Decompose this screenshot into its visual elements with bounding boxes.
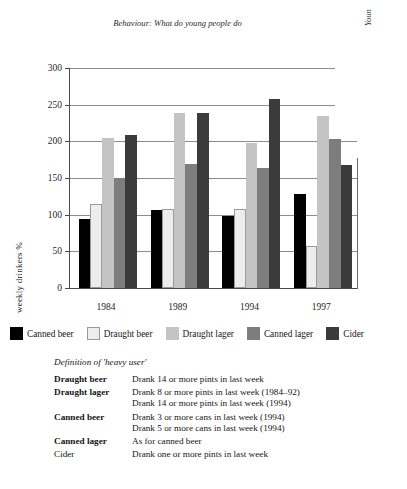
bar-cider-1994: [269, 99, 281, 288]
x-axis-tick-label: 1997: [312, 302, 331, 312]
y-axis-tick: [65, 215, 70, 216]
bar-canned-beer-1989: [151, 210, 163, 288]
definition-line: Drank one or more pints in last week: [132, 449, 394, 460]
gridline: [70, 68, 335, 69]
y-axis-tick-label: 150: [48, 173, 62, 183]
bar-canned-lager-1994: [257, 168, 269, 288]
definition-row: Canned beerDrank 3 or more cans in last …: [54, 412, 394, 434]
x-axis-tick-label: 1994: [240, 302, 259, 312]
bar-canned-lager-1997: [329, 139, 341, 288]
legend-label: Draught lager: [183, 329, 234, 339]
bar-canned-beer-1997: [294, 194, 306, 288]
legend-item-draught-beer: Draught beer: [87, 327, 153, 340]
y-axis-tick: [65, 68, 70, 69]
y-axis-tick-label: 250: [48, 100, 62, 110]
definition-row: Draught beerDrank 14 or more pints in la…: [54, 374, 394, 385]
bar-canned-lager-1989: [185, 164, 197, 288]
legend-swatch-icon: [247, 327, 260, 340]
bar-draught-lager-1997: [317, 116, 329, 288]
legend-item-canned-beer: Canned beer: [10, 327, 74, 340]
bar-chart: weekly drinkers % 0501001502002503001984…: [0, 60, 407, 315]
y-axis-tick: [65, 288, 70, 289]
definition-line: Drank 3 or more cans in last week (1994): [132, 412, 394, 423]
definition-title: Definition of 'heavy user': [54, 357, 394, 367]
chart-legend: Canned beerDraught beerDraught lagerCann…: [10, 327, 400, 340]
y-axis-tick: [65, 105, 70, 106]
bar-draught-beer-1997: [306, 246, 318, 288]
running-head-side: Youn: [363, 9, 373, 26]
definition-line: Drank 8 or more pints in last week (1984…: [132, 387, 394, 398]
bar-draught-beer-1994: [234, 209, 246, 288]
bar-draught-lager-1984: [102, 138, 114, 288]
y-axis-tick-label: 100: [48, 210, 62, 220]
y-axis-tick: [65, 251, 70, 252]
definition-description: As for canned beer: [132, 436, 394, 447]
definition-description: Drank one or more pints in last week: [132, 449, 394, 460]
definition-term: Canned lager: [54, 436, 132, 447]
y-axis-tick: [65, 178, 70, 179]
legend-swatch-icon: [166, 327, 179, 340]
definition-description: Drank 14 or more pints in last week: [132, 374, 394, 385]
book-page: Behaviour: What do young people do Youn …: [0, 0, 407, 489]
legend-swatch-icon: [87, 327, 100, 340]
legend-swatch-icon: [10, 327, 23, 340]
definition-description: Drank 8 or more pints in last week (1984…: [132, 387, 394, 409]
definition-block: Definition of 'heavy user' Draught beerD…: [54, 357, 394, 463]
bar-draught-lager-1989: [174, 113, 186, 288]
legend-label: Cider: [343, 329, 364, 339]
running-head: Behaviour: What do young people do: [0, 18, 355, 28]
definition-row: Canned lagerAs for canned beer: [54, 436, 394, 447]
y-axis-tick-label: 50: [53, 246, 63, 256]
x-axis-line: [69, 288, 358, 289]
plot-right-border: [357, 158, 358, 289]
definition-line: As for canned beer: [132, 436, 394, 447]
y-axis-tick: [65, 141, 70, 142]
legend-label: Canned lager: [264, 329, 313, 339]
definition-term: Cider: [54, 449, 132, 460]
bar-cider-1997: [341, 165, 353, 288]
definition-term: Draught beer: [54, 374, 132, 385]
legend-item-cider: Cider: [326, 327, 364, 340]
legend-swatch-icon: [326, 327, 339, 340]
y-axis-tick-label: 300: [48, 63, 62, 73]
bar-canned-lager-1984: [114, 178, 126, 288]
y-axis-tick-label: 0: [57, 283, 62, 293]
x-axis-tick-label: 1984: [96, 302, 115, 312]
bar-cider-1989: [197, 113, 209, 288]
legend-label: Draught beer: [104, 329, 153, 339]
definition-row: Draught lagerDrank 8 or more pints in la…: [54, 387, 394, 409]
bar-canned-beer-1994: [222, 216, 234, 288]
definition-term: Draught lager: [54, 387, 132, 409]
legend-label: Canned beer: [27, 329, 74, 339]
definition-line: Drank 14 or more pints in last week (199…: [132, 398, 394, 409]
y-axis-label: weekly drinkers %: [14, 242, 24, 313]
definition-line: Drank 5 or more cans in last week (1994): [132, 423, 394, 434]
bar-draught-beer-1989: [162, 209, 174, 288]
legend-item-draught-lager: Draught lager: [166, 327, 234, 340]
gridline: [70, 105, 335, 106]
x-axis-tick-label: 1989: [168, 302, 187, 312]
definition-description: Drank 3 or more cans in last week (1994)…: [132, 412, 394, 434]
bar-canned-beer-1984: [79, 219, 91, 288]
definition-line: Drank 14 or more pints in last week: [132, 374, 394, 385]
legend-item-canned-lager: Canned lager: [247, 327, 313, 340]
definition-term: Canned beer: [54, 412, 132, 434]
bar-draught-lager-1994: [246, 143, 258, 288]
bar-draught-beer-1984: [90, 204, 102, 288]
definition-row: CiderDrank one or more pints in last wee…: [54, 449, 394, 460]
y-axis-tick-label: 200: [48, 136, 62, 146]
plot-area: 0501001502002503001984198919941997: [70, 68, 357, 288]
bar-cider-1984: [125, 135, 137, 288]
